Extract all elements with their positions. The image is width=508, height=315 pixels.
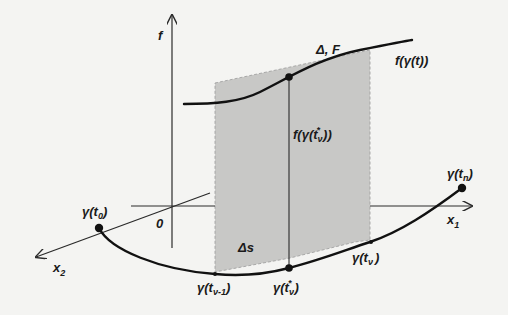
point-start-label: γ(t0) bbox=[82, 204, 107, 221]
strip-area-label: Δ, F bbox=[315, 42, 341, 57]
point-prev bbox=[213, 272, 217, 276]
point-mid-label: γ(tν*) bbox=[273, 278, 299, 297]
point-start bbox=[95, 224, 103, 232]
f-axis-label: f bbox=[158, 28, 164, 43]
x1-axis-label: x1 bbox=[446, 212, 459, 230]
point-curr-label: γ(tν) bbox=[352, 250, 379, 267]
arc-length-label: Δs bbox=[237, 240, 254, 255]
x2-axis bbox=[36, 193, 210, 257]
point-curr bbox=[369, 240, 373, 244]
point-prev-label: γ(tν-1) bbox=[197, 280, 230, 297]
point-mid bbox=[285, 264, 293, 272]
x2-axis-label: x2 bbox=[52, 260, 65, 278]
origin-label: 0 bbox=[156, 216, 164, 231]
surface-curve-label: f(γ(t)) bbox=[395, 53, 428, 68]
point-end bbox=[458, 184, 466, 192]
line-integral-diagram: f 0 x1 x2 Δ, F f(γ(t)) f(γ(tν*)) Δs γ(t0… bbox=[0, 0, 508, 315]
point-top bbox=[285, 73, 293, 81]
height-label: f(γ(tν*)) bbox=[293, 125, 332, 144]
shaded-strip bbox=[215, 50, 370, 272]
point-end-label: γ(tn) bbox=[447, 166, 473, 183]
